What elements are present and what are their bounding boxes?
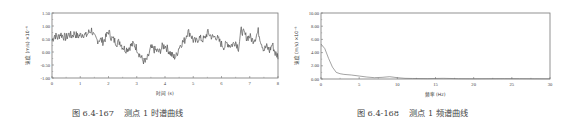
x-tick-label: 25 — [510, 82, 515, 87]
x-tick-label: 7 — [249, 81, 252, 86]
x-tick-label: 30 — [548, 82, 553, 87]
x-tick-label: 0 — [51, 81, 54, 86]
x-tick-label: 8 — [277, 81, 280, 86]
x-tick-label: 4 — [164, 81, 167, 86]
x-tick-label: 10 — [395, 82, 400, 87]
y-tick-label: 2.00 — [311, 63, 320, 68]
y-tick-label: 1.50 — [42, 11, 51, 16]
x-tick-label: 5 — [358, 82, 361, 87]
x-tick-label: 5 — [192, 81, 195, 86]
y-axis-title: 速度 (m/s) ×10⁻⁶ — [293, 26, 300, 65]
velocity-series-line — [52, 27, 278, 64]
time-history-chart: 1.501.000.500.00-0.50-1.00 012345678 时间 … — [24, 11, 280, 97]
x-axis-title: 频率 (Hz) — [425, 91, 446, 98]
y-tick-label: 0.00 — [42, 50, 51, 55]
x-tick-label: 6 — [220, 81, 223, 86]
y-tick-label: 10.00 — [309, 11, 320, 16]
y-tick-label: 0.00 — [311, 77, 320, 82]
x-tick-label: 0 — [320, 82, 323, 87]
x-axis-title: 时间 (s) — [156, 90, 174, 97]
y-tick-label: -1.00 — [40, 76, 50, 81]
y-tick-label: 0.50 — [42, 37, 51, 42]
x-tick-label: 20 — [471, 82, 476, 87]
y-tick-label: 8.00 — [311, 24, 320, 29]
x-tick-label: 15 — [433, 82, 438, 87]
x-tick-label: 1 — [79, 81, 82, 86]
figure-caption-time-history: 图 6.4-167 测点 1 时谱曲线 — [72, 106, 183, 118]
y-tick-label: 4.00 — [311, 50, 320, 55]
x-tick-label: 2 — [107, 81, 110, 86]
y-tick-label: 6.00 — [311, 37, 320, 42]
y-tick-label: 1.00 — [42, 24, 51, 29]
plot-frame — [52, 13, 278, 78]
spectrum-series-line — [321, 44, 550, 79]
y-axis-title: 速度 (m/s) ×10⁻⁶ — [24, 26, 31, 65]
plot-frame — [321, 13, 550, 79]
y-tick-label: -0.50 — [40, 63, 50, 68]
x-tick-label: 3 — [136, 81, 139, 86]
figure-caption-spectrum: 图 6.4-168 测点 1 频谱曲线 — [357, 106, 468, 118]
frequency-spectrum-chart: 10.008.006.004.002.000.00 051015202530 频… — [293, 11, 553, 98]
